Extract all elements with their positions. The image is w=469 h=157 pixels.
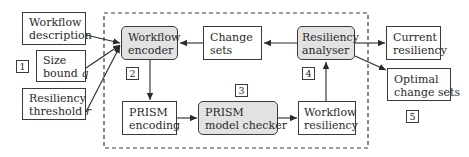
label-line: threshold r [29,105,85,118]
label-line: encoder [128,44,177,57]
workflow-encoder-node: Workflow encoder [121,26,178,60]
optimal-change-sets-output: Optimal change sets [387,68,451,101]
label-word: threshold [29,105,82,118]
size-bound-input: Size bound q [36,50,86,82]
label-line: resiliency [304,119,355,132]
label-line: model checker [205,119,277,132]
label-line: change sets [394,86,450,99]
workflow-resiliency-node: Workflow resiliency [298,101,356,135]
step-tag-3: 3 [235,84,248,97]
current-resiliency-output: Current resiliency [386,26,441,60]
label-line: Optimal [394,73,450,86]
label-line: PRISM [205,106,277,119]
resiliency-threshold-input: Resiliency threshold r [22,88,86,120]
label-word: bound [43,67,78,80]
label-line: Resiliency [302,31,354,44]
label-line: Workflow [29,16,85,29]
step-tag-5: 5 [406,110,419,123]
label-line: Current [393,31,440,44]
resiliency-analyser-node: Resiliency analyser [297,26,355,60]
label-line: encoding [129,119,176,132]
label-line: resiliency [393,44,440,57]
label-line: Change [210,31,261,44]
variable-r: r [86,105,91,118]
change-sets-node: Change sets [203,26,262,60]
step-tag-1: 1 [16,60,29,73]
workflow-description-input: Workflow description [22,12,86,45]
prism-model-checker-node: PRISM model checker [198,101,278,135]
label-line: Workflow [304,106,355,119]
prism-encoding-node: PRISM encoding [122,101,177,135]
label-line: Resiliency [29,92,85,105]
label-line: Workflow [128,31,177,44]
label-line: sets [210,44,261,57]
label-line: analyser [302,44,354,57]
label-line: bound q [43,67,85,80]
step-tag-2: 2 [126,67,139,80]
label-line: description [29,29,85,42]
label-line: PRISM [129,106,176,119]
label-line: Size [43,54,85,67]
step-tag-4: 4 [302,67,315,80]
variable-q: q [81,67,88,80]
